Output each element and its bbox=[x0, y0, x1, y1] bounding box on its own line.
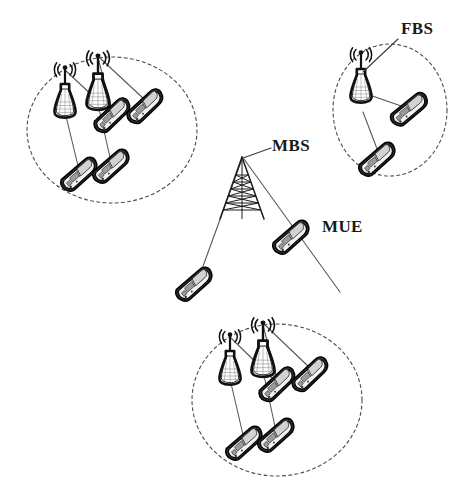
macro-links-layer bbox=[198, 159, 340, 292]
femto-cell-top-right bbox=[350, 48, 433, 180]
femto-base-station-b-1[interactable] bbox=[219, 330, 240, 385]
mbs-label: MBS bbox=[272, 136, 310, 155]
mbs-leader-line bbox=[243, 148, 271, 158]
cell-boundary-top-left bbox=[27, 57, 197, 203]
femto-cell-bottom bbox=[219, 318, 334, 464]
femto-base-station-b-2[interactable] bbox=[252, 318, 275, 377]
femto-user-equipment-tr-1[interactable] bbox=[386, 90, 433, 129]
femto-base-station-tr-1[interactable] bbox=[350, 48, 371, 103]
femto-user-equipment-tr-2[interactable] bbox=[354, 140, 401, 180]
femto-link-tr-2 bbox=[363, 112, 379, 154]
network-diagram-canvas: FBS MBS MUE bbox=[0, 0, 463, 484]
cell-boundary-bottom bbox=[192, 324, 362, 476]
callout-leader-lines-layer bbox=[243, 39, 398, 158]
fbs-label: FBS bbox=[401, 19, 433, 38]
femto-link-tl-4 bbox=[65, 112, 79, 170]
macro-base-station-tower[interactable] bbox=[220, 157, 264, 219]
mue-label: MUE bbox=[322, 217, 363, 236]
macro-user-equipment-1[interactable] bbox=[171, 265, 218, 305]
femto-link-b-4 bbox=[230, 379, 244, 439]
femto-base-station-tl-2[interactable] bbox=[87, 51, 110, 110]
femto-cell-top-left bbox=[54, 51, 169, 195]
callout-labels-layer: FBS MBS MUE bbox=[272, 19, 433, 236]
network-diagram-figure: FBS MBS MUE bbox=[0, 0, 463, 484]
femto-base-station-tl-1[interactable] bbox=[54, 63, 75, 118]
macro-user-equipment-layer bbox=[171, 218, 315, 305]
